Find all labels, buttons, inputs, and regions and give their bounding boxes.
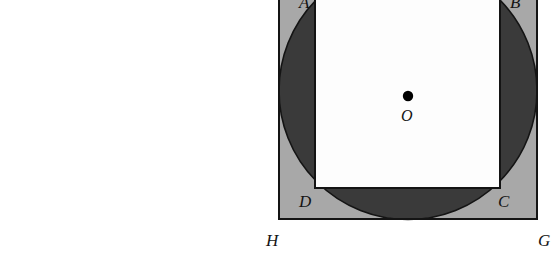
vertex-label-a: A [299,0,309,11]
center-point-dot [403,91,413,101]
vertex-label-d: D [299,193,311,210]
vertex-label-h: H [266,232,278,249]
geometry-figure: A B D C O H G [0,0,554,280]
vertex-label-c: C [498,193,509,210]
vertex-label-b: B [510,0,520,11]
vertex-label-g: G [538,232,550,249]
center-point-label: O [401,108,413,124]
